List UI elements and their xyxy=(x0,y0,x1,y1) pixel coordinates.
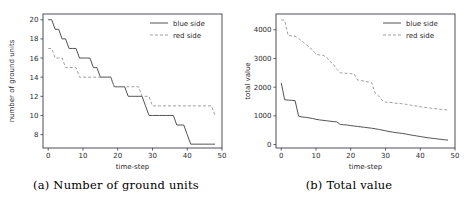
series-line-blue-side xyxy=(281,83,448,140)
y-tick-label: 2000 xyxy=(254,84,272,92)
y-tick-label: 14 xyxy=(30,74,39,82)
legend-label-blue: blue side xyxy=(173,20,205,28)
legend-label-blue: blue side xyxy=(406,20,438,28)
x-tick-label: 30 xyxy=(148,152,157,160)
x-tick-label: 50 xyxy=(218,152,227,160)
x-tick-label: 50 xyxy=(451,152,460,160)
y-tick-label: 8 xyxy=(34,131,38,139)
legend-label-red: red side xyxy=(173,32,201,40)
x-axis-label-b: time-step xyxy=(349,163,383,171)
x-tick-label: 10 xyxy=(312,152,321,160)
panel-b: 01020304050 01000200030004000 time-step … xyxy=(233,0,465,201)
y-tick-label: 16 xyxy=(30,55,39,63)
y-tick-label: 20 xyxy=(30,16,39,24)
x-tick-label: 30 xyxy=(381,152,390,160)
y-ticks-b: 01000200030004000 xyxy=(254,26,276,149)
series-line-red-side xyxy=(48,48,215,115)
x-tick-label: 20 xyxy=(346,152,355,160)
legend-a: blue sidered side xyxy=(150,20,205,40)
y-tick-label: 0 xyxy=(267,141,271,149)
x-tick-label: 40 xyxy=(183,152,192,160)
caption-b: (b) Total value xyxy=(233,178,465,192)
figure-container: 01020304050 8101214161820 time-step numb… xyxy=(0,0,465,201)
y-tick-label: 10 xyxy=(30,112,39,120)
y-axis-label-a: number of ground units xyxy=(8,39,16,122)
x-tick-label: 10 xyxy=(79,152,88,160)
y-ticks-a: 8101214161820 xyxy=(30,16,43,139)
panel-a: 01020304050 8101214161820 time-step numb… xyxy=(0,0,232,201)
x-tick-label: 20 xyxy=(113,152,122,160)
y-tick-label: 12 xyxy=(30,93,39,101)
legend-label-red: red side xyxy=(406,32,434,40)
y-tick-label: 3000 xyxy=(254,55,272,63)
caption-a: (a) Number of ground units xyxy=(0,178,232,192)
chart-a-svg: 01020304050 8101214161820 time-step numb… xyxy=(0,0,232,178)
y-axis-label-b: total value xyxy=(244,62,252,99)
x-tick-label: 40 xyxy=(416,152,425,160)
chart-b-svg: 01020304050 01000200030004000 time-step … xyxy=(233,0,465,178)
x-tick-label: 0 xyxy=(46,152,50,160)
x-tick-label: 0 xyxy=(279,152,283,160)
y-tick-label: 1000 xyxy=(254,112,272,120)
x-ticks-b: 01020304050 xyxy=(279,148,459,160)
legend-b: blue sidered side xyxy=(383,20,438,40)
x-axis-label-a: time-step xyxy=(116,163,150,171)
x-ticks-a: 01020304050 xyxy=(46,148,226,160)
y-tick-label: 4000 xyxy=(254,26,272,34)
y-tick-label: 18 xyxy=(30,35,39,43)
